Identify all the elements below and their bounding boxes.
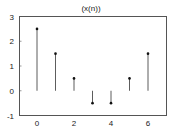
x-tick-label: 6 (146, 119, 151, 128)
y-tick-label: 3 (10, 13, 15, 22)
stem-series (36, 28, 150, 105)
y-tick-label: 1 (10, 62, 15, 71)
stem-marker (128, 77, 131, 80)
stem-point (91, 91, 94, 105)
x-axis-ticks: 0246 (35, 119, 151, 128)
x-tick-label: 4 (109, 119, 114, 128)
x-tick-label: 0 (35, 119, 40, 128)
stem-marker (91, 102, 94, 105)
stem-plot: (x(n)) -10123 0246 (0, 0, 171, 136)
stem-marker (110, 102, 113, 105)
stem-point (110, 91, 113, 105)
stem-marker (147, 52, 150, 55)
x-tick-label: 2 (72, 119, 77, 128)
stem-point (128, 77, 131, 91)
chart-title: (x(n)) (81, 4, 100, 13)
stem-point (73, 77, 76, 91)
y-tick-label: 0 (10, 87, 15, 96)
stem-point (36, 28, 39, 91)
y-tick-label: -1 (7, 112, 15, 121)
plot-frame (20, 17, 167, 116)
stem-marker (36, 28, 39, 31)
stem-point (147, 52, 150, 90)
stem-marker (73, 77, 76, 80)
stem-marker (54, 52, 57, 55)
stem-point (54, 52, 57, 90)
y-tick-label: 2 (10, 37, 15, 46)
